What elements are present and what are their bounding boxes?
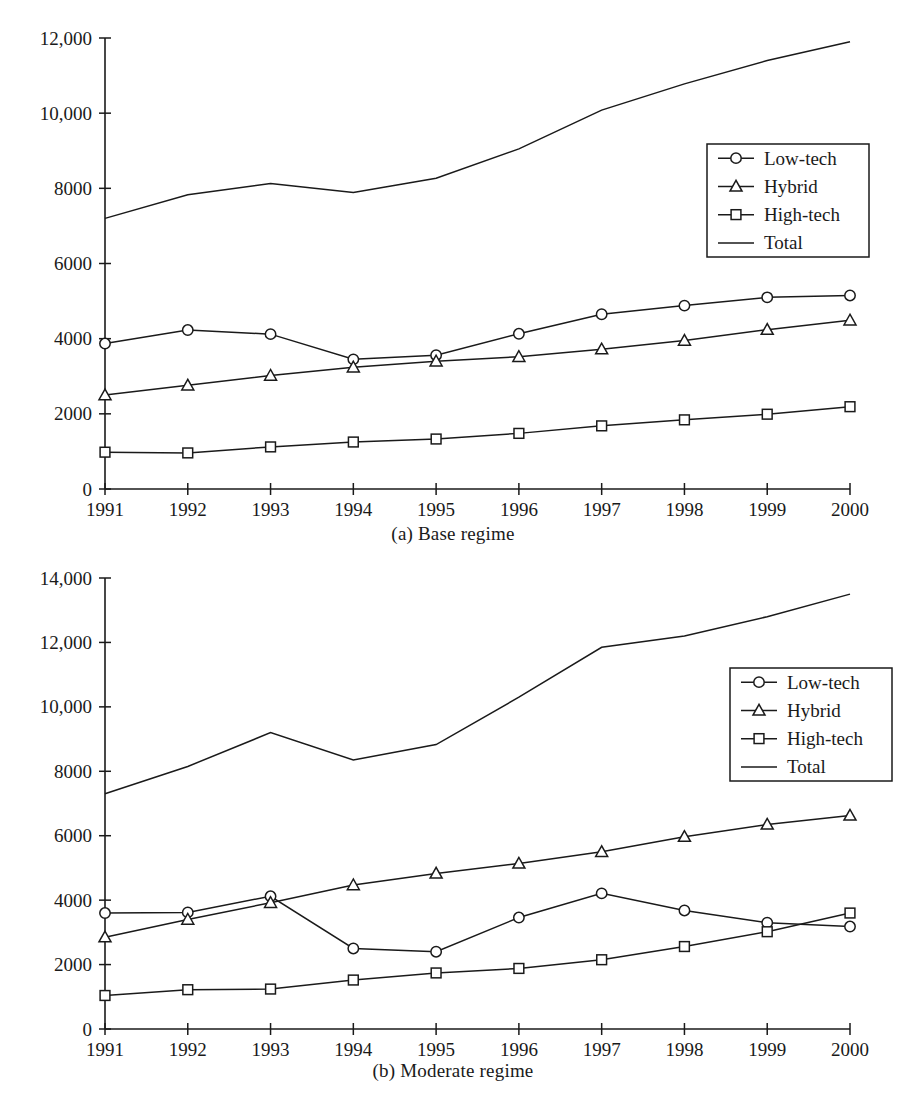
circle-marker xyxy=(845,921,855,931)
x-tick-label: 1994 xyxy=(334,1039,373,1060)
x-tick-label: 1995 xyxy=(417,499,455,520)
square-marker xyxy=(183,985,193,995)
triangle-marker xyxy=(844,809,856,820)
figure-two-line-charts: 0200040006000800010,00012,00019911992199… xyxy=(0,0,906,1093)
legend-circle-marker xyxy=(731,153,741,163)
y-tick-label: 12,000 xyxy=(40,632,92,653)
series-line-high-tech xyxy=(105,913,850,995)
legend-label-hybrid: Hybrid xyxy=(764,176,818,197)
legend-label-low-tech: Low-tech xyxy=(787,672,860,693)
x-tick-label: 1992 xyxy=(169,1039,207,1060)
x-tick-label: 1998 xyxy=(665,1039,703,1060)
y-tick-label: 10,000 xyxy=(40,696,92,717)
circle-marker xyxy=(845,290,855,300)
circle-marker xyxy=(100,338,110,348)
square-marker xyxy=(183,448,193,458)
square-marker xyxy=(431,434,441,444)
line-chart-moderate-regime: 0200040006000800010,00012,00014,00019911… xyxy=(0,548,906,1060)
y-tick-label: 8000 xyxy=(54,178,92,199)
x-tick-label: 2000 xyxy=(831,499,869,520)
circle-marker xyxy=(762,292,772,302)
circle-marker xyxy=(265,329,275,339)
x-tick-label: 1999 xyxy=(748,1039,786,1060)
x-tick-label: 1997 xyxy=(583,499,621,520)
square-marker xyxy=(597,421,607,431)
square-marker xyxy=(680,942,690,952)
chart-panel-base-regime: 0200040006000800010,00012,00019911992199… xyxy=(0,0,906,556)
y-tick-label: 8000 xyxy=(54,761,92,782)
chart-panel-moderate-regime: 0200040006000800010,00012,00014,00019911… xyxy=(0,548,906,1093)
x-tick-label: 1991 xyxy=(86,1039,124,1060)
circle-marker xyxy=(514,912,524,922)
square-marker xyxy=(266,442,276,452)
square-marker xyxy=(431,968,441,978)
y-tick-label: 0 xyxy=(83,479,93,500)
square-marker xyxy=(762,409,772,419)
square-marker xyxy=(514,964,524,974)
legend-square-marker xyxy=(731,210,741,220)
series-line-low-tech xyxy=(105,295,850,359)
legend-label-total: Total xyxy=(787,756,826,777)
square-marker xyxy=(680,415,690,425)
square-marker xyxy=(100,991,110,1001)
square-marker xyxy=(845,402,855,412)
x-tick-label: 1998 xyxy=(665,499,703,520)
legend-label-total: Total xyxy=(764,232,803,253)
caption-moderate-regime: (b) Moderate regime xyxy=(0,1060,906,1082)
caption-base-regime: (a) Base regime xyxy=(0,523,906,545)
circle-marker xyxy=(679,905,689,915)
x-tick-label: 1994 xyxy=(334,499,373,520)
y-tick-label: 10,000 xyxy=(40,103,92,124)
circle-marker xyxy=(596,888,606,898)
series-line-high-tech xyxy=(105,407,850,453)
square-marker xyxy=(762,927,772,937)
circle-marker xyxy=(348,943,358,953)
x-tick-label: 1997 xyxy=(583,1039,621,1060)
y-tick-label: 14,000 xyxy=(40,568,92,589)
y-tick-label: 2000 xyxy=(54,403,92,424)
x-tick-label: 1993 xyxy=(252,499,290,520)
legend-square-marker xyxy=(754,734,764,744)
y-tick-label: 0 xyxy=(83,1019,93,1040)
x-tick-label: 1999 xyxy=(748,499,786,520)
x-tick-label: 1991 xyxy=(86,499,124,520)
y-tick-label: 6000 xyxy=(54,825,92,846)
x-tick-label: 1996 xyxy=(500,1039,538,1060)
circle-marker xyxy=(431,946,441,956)
y-tick-label: 6000 xyxy=(54,253,92,274)
square-marker xyxy=(100,447,110,457)
legend-label-low-tech: Low-tech xyxy=(764,148,837,169)
circle-marker xyxy=(183,325,193,335)
line-chart-base-regime: 0200040006000800010,00012,00019911992199… xyxy=(0,0,906,520)
series-line-low-tech xyxy=(105,893,850,951)
square-marker xyxy=(845,908,855,918)
y-tick-label: 4000 xyxy=(54,328,92,349)
x-tick-label: 1993 xyxy=(252,1039,290,1060)
circle-marker xyxy=(679,300,689,310)
legend-label-hybrid: Hybrid xyxy=(787,700,841,721)
circle-marker xyxy=(100,908,110,918)
square-marker xyxy=(266,984,276,994)
circle-marker xyxy=(596,309,606,319)
x-tick-label: 2000 xyxy=(831,1039,869,1060)
triangle-marker xyxy=(844,314,856,325)
square-marker xyxy=(597,955,607,965)
y-tick-label: 2000 xyxy=(54,954,92,975)
legend-label-high-tech: High-tech xyxy=(787,728,863,749)
circle-marker xyxy=(514,329,524,339)
y-tick-label: 12,000 xyxy=(40,28,92,49)
square-marker xyxy=(514,428,524,438)
legend-label-high-tech: High-tech xyxy=(764,204,840,225)
square-marker xyxy=(348,437,358,447)
y-tick-label: 4000 xyxy=(54,890,92,911)
x-tick-label: 1992 xyxy=(169,499,207,520)
x-tick-label: 1996 xyxy=(500,499,538,520)
x-tick-label: 1995 xyxy=(417,1039,455,1060)
square-marker xyxy=(348,975,358,985)
legend-circle-marker xyxy=(754,677,764,687)
